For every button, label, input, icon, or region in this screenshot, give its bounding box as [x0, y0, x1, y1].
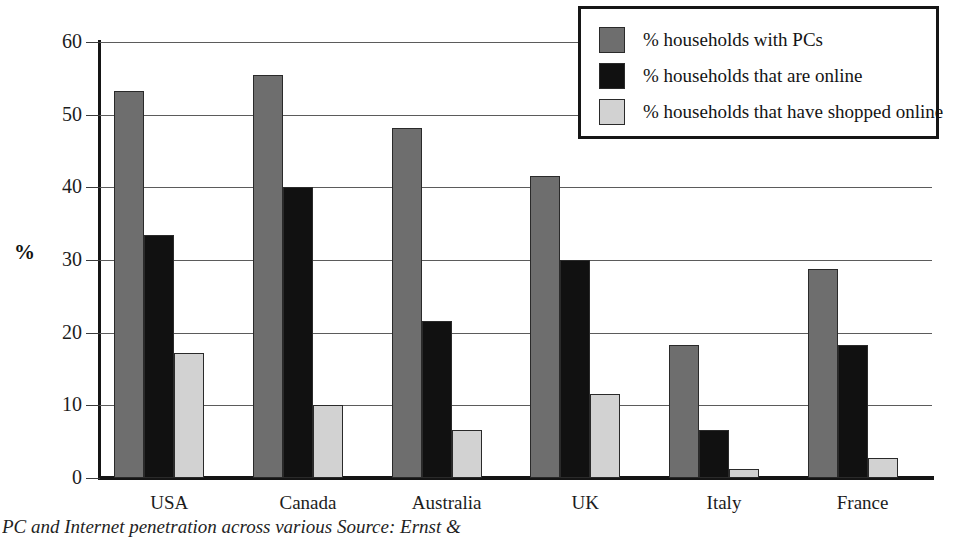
- y-axis-tickmark: [86, 260, 100, 261]
- y-axis-tick-label: 10: [38, 394, 82, 414]
- y-axis-tickmark: [86, 333, 100, 334]
- y-axis-tickmark: [86, 42, 100, 43]
- x-axis-tick-label: France: [793, 492, 932, 514]
- bar: [808, 269, 838, 478]
- legend-item[interactable]: % households that have shopped online: [599, 95, 943, 129]
- y-axis-title: %: [14, 240, 36, 265]
- bar: [699, 430, 729, 478]
- legend-label: % households with PCs: [643, 29, 823, 51]
- y-axis-tickmark: [86, 478, 100, 479]
- x-axis-tick-label: Australia: [377, 492, 516, 514]
- x-axis-tick-label: USA: [100, 492, 239, 514]
- bar: [452, 430, 482, 478]
- bar: [392, 128, 422, 478]
- bar: [114, 91, 144, 478]
- bar: [422, 321, 452, 478]
- bar: [144, 235, 174, 478]
- bar: [174, 353, 204, 478]
- y-axis-tick-label: 40: [38, 176, 82, 196]
- figure-caption: PC and Internet penetration across vario…: [2, 516, 702, 538]
- legend-item[interactable]: % households with PCs: [599, 23, 823, 57]
- x-axis-tick-label: UK: [516, 492, 655, 514]
- x-axis-tick-label: Canada: [239, 492, 378, 514]
- y-axis-tick-label: 60: [38, 31, 82, 51]
- y-axis-tickmark: [86, 187, 100, 188]
- bar: [560, 260, 590, 478]
- legend-swatch-icon: [599, 63, 625, 89]
- x-axis-tick-label: Italy: [655, 492, 794, 514]
- legend-item[interactable]: % households that are online: [599, 59, 863, 93]
- y-axis-tickmark: [86, 405, 100, 406]
- bar: [669, 345, 699, 478]
- bar: [313, 405, 343, 478]
- gridline: [100, 187, 932, 188]
- bar: [530, 176, 560, 478]
- bar: [253, 75, 283, 478]
- gridline: [100, 260, 932, 261]
- legend-swatch-icon: [599, 27, 625, 53]
- bar: [868, 458, 898, 478]
- y-axis-tick-label: 0: [38, 467, 82, 487]
- bar: [283, 187, 313, 478]
- legend-label: % households that are online: [643, 65, 863, 87]
- bar: [838, 345, 868, 478]
- y-axis-tickmark: [86, 115, 100, 116]
- y-axis-tick-label: 50: [38, 104, 82, 124]
- bar: [590, 394, 620, 478]
- y-axis-tick-label: 20: [38, 322, 82, 342]
- y-axis-tick-label: 30: [38, 249, 82, 269]
- legend: % households with PCs% households that a…: [578, 6, 939, 139]
- legend-label: % households that have shopped online: [643, 101, 943, 123]
- legend-swatch-icon: [599, 99, 625, 125]
- bar: [729, 469, 759, 478]
